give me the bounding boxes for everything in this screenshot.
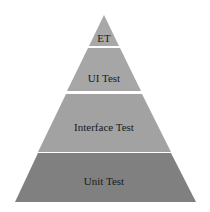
layer-label-unit-test: Unit Test <box>84 175 124 187</box>
layer-label-et: ET <box>97 32 111 44</box>
pyramid-layer-ui-test <box>67 48 141 91</box>
layer-label-ui-test: UI Test <box>88 72 120 84</box>
test-pyramid: ET UI Test Interface Test Unit Test <box>0 0 210 212</box>
layer-label-interface-test: Interface Test <box>74 121 134 133</box>
